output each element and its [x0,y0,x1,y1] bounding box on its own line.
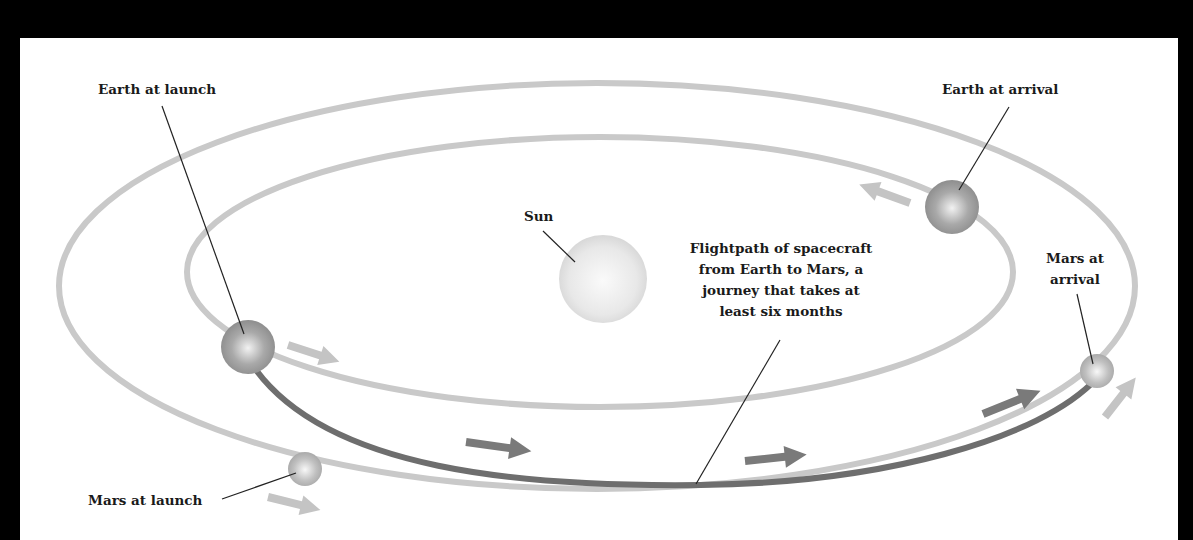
flightpath-label-line: Flightpath of spacecraft [676,238,886,259]
sun-leader [543,231,575,262]
mars-launch-label: Mars at launch [88,490,202,511]
mars-arrival-label-line: arrival [1030,269,1120,290]
sun-icon [559,235,647,323]
earth-arrival-icon [925,180,979,234]
mars-arrival-label: Mars at arrival [1030,248,1120,290]
earth-arrival-leader [959,107,1009,190]
mars-arrival-icon [1080,354,1114,388]
flightpath-label: Flightpath of spacecraft from Earth to M… [676,238,886,322]
mars-launch-icon [288,452,322,486]
flightpath-arrow-icon [744,444,808,472]
mars-orbit-arrow-icon [266,487,323,519]
earth-arrival-label: Earth at arrival [942,79,1058,100]
earth-orbit-arrow-icon [285,335,343,371]
mars-launch-leader [222,473,296,499]
earth-launch-icon [221,320,275,374]
flightpath-label-line: journey that takes at [676,280,886,301]
flightpath-label-line: from Earth to Mars, a [676,259,886,280]
sun-label: Sun [524,206,553,227]
flightpath-label-line: least six months [676,301,886,322]
earth-launch-label: Earth at launch [98,79,216,100]
mars-arrival-leader [1077,294,1093,364]
mars-arrival-label-line: Mars at [1030,248,1120,269]
earth-launch-leader [162,106,244,334]
flightpath-arrow-icon [464,431,532,462]
